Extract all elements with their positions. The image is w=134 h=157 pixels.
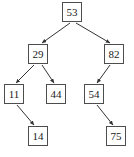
tree-edge-n53-n29: [42, 23, 70, 43]
tree-edge-n29-n11: [16, 65, 34, 83]
tree-node-leaf-right: 54: [84, 84, 104, 104]
tree-node-right-child: 82: [104, 44, 124, 64]
tree-node-leaf-left: 11: [4, 84, 24, 104]
tree-edge-n82-n54: [97, 65, 110, 83]
tree-node-root: 53: [62, 2, 82, 22]
binary-search-tree-diagram: 53 29 82 11 44 54 14 75: [0, 0, 134, 157]
tree-edges: [16, 23, 113, 125]
tree-node-deep-right: 75: [106, 126, 126, 146]
tree-node-leaf-mid: 44: [46, 84, 66, 104]
tree-node-deep-left: 14: [28, 126, 48, 146]
tree-edge-n53-n82: [76, 23, 110, 43]
tree-edge-n29-n44: [42, 65, 54, 83]
tree-node-left-child: 29: [28, 44, 48, 64]
tree-edge-n11-n14: [17, 105, 34, 125]
tree-edge-n54-n75: [97, 105, 113, 125]
